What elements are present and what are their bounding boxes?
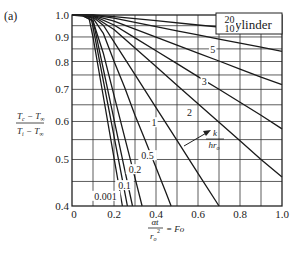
svg-text:Ti − T∞: Ti − T∞	[17, 126, 44, 137]
y-axis-ticks: 0.40.50.60.70.80.91.0	[55, 9, 69, 212]
x-tick-label: 1.0	[275, 208, 289, 220]
curve-label: 5	[210, 44, 215, 55]
curve-labels: 201053210.50.20.10.001	[91, 14, 236, 202]
x-tick-label: 0.6	[191, 208, 205, 220]
svg-text:k: k	[213, 128, 218, 138]
curve-label: 1	[151, 117, 156, 128]
heisler-cylinder-chart: (a) Cylinder 0.40.50.60.70.80.91.0 00.20…	[0, 0, 308, 255]
svg-text:Tc − T∞: Tc − T∞	[17, 111, 45, 122]
y-tick-label: 0.9	[55, 31, 69, 43]
curve-label: 2	[187, 107, 192, 118]
svg-text:= Fo: = Fo	[166, 224, 185, 234]
curve-label: 10	[225, 23, 235, 34]
curve-label: 0.5	[141, 150, 154, 161]
x-axis-ticks: 00.20.40.60.81.0	[71, 208, 289, 220]
y-tick-label: 0.7	[55, 83, 69, 95]
y-tick-label: 1.0	[55, 9, 69, 21]
curve-label: 0.1	[118, 180, 131, 191]
svg-text:ro: ro	[150, 231, 157, 242]
curve-label: 3	[202, 76, 207, 87]
x-axis-label: αt ro 2 = Fo	[148, 217, 185, 242]
svg-text:2: 2	[157, 228, 160, 234]
x-tick-label: 0.8	[233, 208, 247, 220]
y-axis-label: Tc − T∞ Ti − T∞	[16, 111, 45, 137]
y-tick-label: 0.6	[55, 115, 69, 127]
x-tick-label: 0.2	[107, 208, 121, 220]
grid-lines	[72, 15, 282, 206]
curve-k-hr-0.1	[72, 15, 133, 206]
x-tick-label: 0	[71, 208, 77, 220]
curve-label: 0.2	[129, 164, 142, 175]
y-tick-label: 0.4	[55, 200, 69, 212]
svg-text:hro: hro	[208, 140, 219, 151]
panel-label: (a)	[4, 9, 17, 23]
y-tick-label: 0.5	[55, 153, 69, 165]
svg-text:αt: αt	[151, 217, 159, 227]
y-tick-label: 0.8	[55, 56, 69, 68]
curve-label: 0.001	[94, 191, 117, 202]
